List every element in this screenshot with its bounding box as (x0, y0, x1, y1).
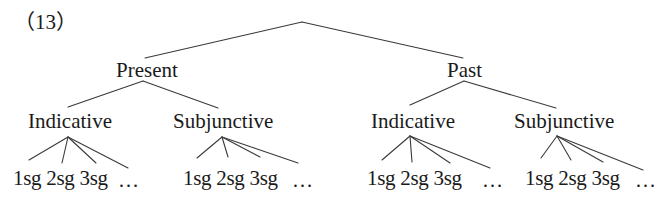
branch-past_subjunctive-leaf-2 (557, 136, 603, 162)
branch-root-present (145, 22, 302, 58)
leaves-past-indicative: 1sg 2sg 3sg (367, 168, 462, 189)
node-present-indicative: Indicative (28, 111, 112, 132)
branch-present_subjunctive-leaf-2 (222, 137, 260, 157)
branch-present-indicative (68, 81, 143, 107)
branch-present_indicative-leaf-0 (29, 137, 68, 160)
node-past-subjunctive: Subjunctive (514, 111, 614, 132)
node-present-subjunctive: Subjunctive (173, 111, 273, 132)
branch-present_subjunctive-leaf-3 (222, 137, 298, 163)
node-past: Past (447, 60, 482, 81)
branch-root-past (302, 22, 463, 58)
branch-past_subjunctive-leaf-3 (557, 136, 643, 170)
branch-past-indicative (410, 81, 464, 105)
branch-present_indicative-leaf-3 (68, 137, 128, 168)
branch-present_indicative-leaf-1 (62, 137, 68, 163)
branch-present-subjunctive (143, 81, 218, 108)
node-present: Present (116, 60, 178, 81)
branch-past-subjunctive (464, 81, 556, 108)
leaves-present-indicative: 1sg 2sg 3sg (13, 168, 108, 189)
branch-past_subjunctive-leaf-0 (541, 136, 557, 158)
node-past-indicative: Indicative (371, 111, 455, 132)
branch-present_indicative-leaf-2 (68, 137, 96, 163)
tense-mood-tree-diagram: （13） Present Past Indicative Subjunctive… (0, 0, 667, 200)
leaves-past-subjunctive: 1sg 2sg 3sg (525, 168, 620, 189)
ellipsis-past-indicative: … (482, 170, 504, 191)
branch-present_subjunctive-leaf-0 (197, 137, 222, 158)
branch-past_indicative-leaf-0 (382, 136, 410, 160)
example-number-label: （13） (14, 12, 77, 33)
ellipsis-present-indicative: … (118, 170, 140, 191)
ellipsis-present-subjunctive: … (292, 170, 314, 191)
leaves-present-subjunctive: 1sg 2sg 3sg (183, 168, 278, 189)
ellipsis-past-subjunctive: … (635, 170, 657, 191)
branch-past_indicative-leaf-1 (410, 136, 412, 162)
